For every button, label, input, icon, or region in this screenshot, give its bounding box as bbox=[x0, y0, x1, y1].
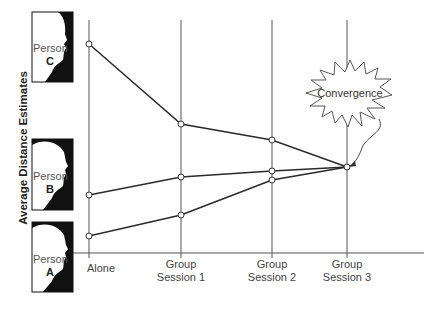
x-tick-session-1: Group Session 1 bbox=[146, 258, 216, 284]
person-word: Person bbox=[33, 253, 68, 265]
person-letter: B bbox=[33, 183, 67, 196]
series-person-a bbox=[89, 167, 347, 236]
person-a-label: Person A bbox=[33, 253, 67, 279]
person-letter: A bbox=[33, 266, 67, 279]
person-word: Person bbox=[33, 42, 68, 54]
series-person-b bbox=[89, 167, 347, 195]
person-letter: C bbox=[33, 55, 67, 68]
person-word: Person bbox=[33, 170, 68, 182]
vertical-gridlines bbox=[89, 20, 347, 258]
series-person-c bbox=[89, 44, 347, 167]
x-tick-alone: Alone bbox=[66, 262, 136, 275]
tick-line2: Session 1 bbox=[146, 271, 216, 284]
convergence-arrow bbox=[350, 119, 380, 166]
person-b-label: Person B bbox=[33, 170, 67, 196]
x-tick-session-2: Group Session 2 bbox=[237, 258, 307, 284]
tick-line2: Session 2 bbox=[237, 271, 307, 284]
person-c-label: Person C bbox=[33, 42, 67, 68]
convergence-label: Convergence bbox=[310, 87, 390, 99]
tick-line1: Group bbox=[146, 258, 216, 271]
x-tick-session-3: Group Session 3 bbox=[312, 258, 382, 284]
y-axis-label: Average Distance Estimates bbox=[17, 63, 29, 233]
tick-line1: Group bbox=[312, 258, 382, 271]
data-points bbox=[86, 41, 350, 239]
tick-line2: Session 3 bbox=[312, 271, 382, 284]
tick-line1: Alone bbox=[66, 262, 136, 275]
tick-line1: Group bbox=[237, 258, 307, 271]
